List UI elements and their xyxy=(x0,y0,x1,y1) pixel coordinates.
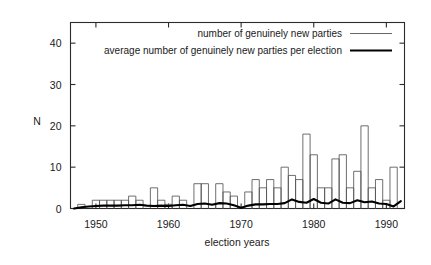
bar xyxy=(172,196,179,208)
bar xyxy=(346,188,353,209)
bar xyxy=(274,188,281,209)
bar xyxy=(288,175,295,208)
y-tick-label: 30 xyxy=(50,79,62,91)
bar xyxy=(100,200,107,208)
bar xyxy=(107,200,114,208)
y-tick-label: 20 xyxy=(50,120,62,132)
y-axis-label: N xyxy=(33,115,41,127)
bar xyxy=(325,188,332,209)
x-tick-label: 1980 xyxy=(302,218,326,230)
bar xyxy=(223,192,230,209)
chart-legend: number of genuinely new parties average … xyxy=(104,28,392,56)
bar xyxy=(361,126,368,209)
bar xyxy=(354,171,361,208)
bar-series-new-parties xyxy=(78,126,397,209)
x-tick-label: 1970 xyxy=(229,218,253,230)
bar xyxy=(303,134,310,208)
new-parties-chart: 010203040 19501960197019801990 N electio… xyxy=(0,0,431,265)
y-tick-label: 10 xyxy=(50,161,62,173)
bar xyxy=(317,188,324,209)
chart-figure: 010203040 19501960197019801990 N electio… xyxy=(0,0,431,265)
legend-label-average: average number of genuinely new parties … xyxy=(104,45,342,56)
bar xyxy=(368,188,375,209)
y-tick-label: 0 xyxy=(56,203,62,215)
bar xyxy=(390,167,397,208)
x-tick-label: 1990 xyxy=(375,218,399,230)
x-axis-label: election years xyxy=(205,236,270,248)
bar xyxy=(296,180,303,209)
x-tick-label: 1960 xyxy=(157,218,181,230)
x-tick-label: 1950 xyxy=(84,218,108,230)
bar xyxy=(114,200,121,208)
bar xyxy=(158,200,165,208)
bar xyxy=(129,196,136,208)
y-tick-label: 40 xyxy=(50,37,62,49)
legend-label-new-parties: number of genuinely new parties xyxy=(197,28,342,39)
